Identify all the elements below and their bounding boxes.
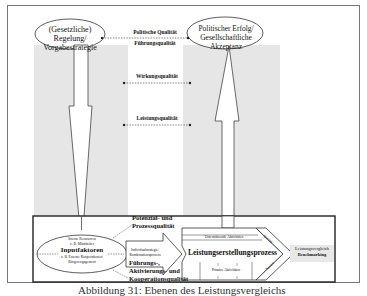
performance-quality-label: Leistungsqualität <box>127 115 187 121</box>
benchmark-line2: Benchmarking <box>289 252 335 258</box>
potential-process-quality: Potenzial- und Prozessqualität <box>132 214 175 230</box>
leadership-activation-quality: Führungs-, Aktivierungs- und Kooperation… <box>129 259 188 283</box>
potential-line2: Prozessqualität <box>132 222 175 230</box>
success-line1: Politischer Erfolg/ <box>185 24 267 33</box>
supporting-activities: Unterstützende Aktivitäten <box>196 235 252 240</box>
success-line2: Gesellschaftliche Akzeptanz <box>185 33 267 51</box>
regulation-line1: (Gesetzliche) Regelung/ <box>35 25 105 43</box>
combination-arrow: Individualstrategie/ Kombinationsprozess <box>126 248 164 257</box>
figure-caption: Abbildung 31: Ebenen des Leistungsvergle… <box>78 284 286 296</box>
primary-activities: Primäre Aktivitäten <box>200 268 252 273</box>
success-ellipse: Politischer Erfolg/ Gesellschaftliche Ak… <box>185 24 267 51</box>
benchmark-label: Leistungsvergleich Benchmarking <box>289 246 335 258</box>
regulation-ellipse: (Gesetzliche) Regelung/ Vorgabestrategie <box>35 25 105 52</box>
regulation-line2: Vorgabestrategie <box>35 43 105 52</box>
combination-line1: Individualstrategie/ <box>126 248 164 253</box>
leadership-line2: Aktivierungs- und <box>129 267 188 275</box>
input-factors-ellipse: Interne Ressourcen z. B. Mitarbeiter Inp… <box>40 237 124 264</box>
effect-quality-label: Wirkungsqualität <box>127 73 187 79</box>
leadership-line1: Führungs-, <box>129 259 188 267</box>
input-line4: Bürgerengagement <box>40 260 124 265</box>
potential-line1: Potenzial- und <box>132 214 175 222</box>
political-quality-label: Politische Qualität <box>125 29 185 35</box>
leadership-line3: Kooperationsqualität <box>129 275 188 283</box>
combination-line2: Kombinationsprozess <box>126 253 164 258</box>
process-title: Leistungserstellungsprozess <box>188 248 277 257</box>
input-title: Inputfaktoren <box>40 246 124 255</box>
leadership-quality-label: Führungsqualität <box>125 40 185 46</box>
